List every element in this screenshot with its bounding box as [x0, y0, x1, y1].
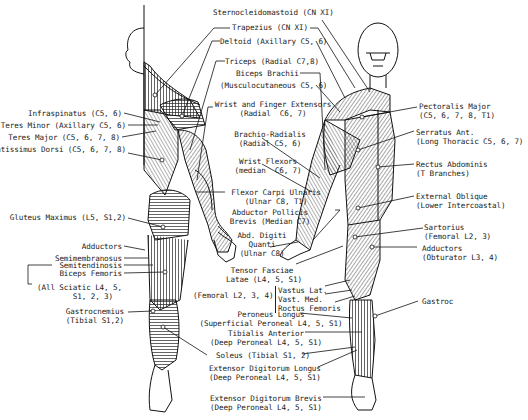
label-rectus-abdominis: Rectus Abdominis (T Branches) — [416, 160, 488, 178]
label-tibialis-anterior: Tibialis Anterior (Deep Peroneal L4, 5, … — [210, 329, 322, 347]
label-brachio-radialis: Brachio-Radialis (Radial C5, 6) — [225, 130, 315, 148]
label-sartorius: Sartorius (Femoral L2, 3) — [424, 223, 491, 241]
label-extensor-digitorum-brevis: Extensor Digitorum Brevis (Deep Peroneal… — [210, 394, 322, 412]
label-tensor-fasciae-latae: Tensor Fasciae Latae (L4, 5, S1) — [226, 266, 298, 284]
label-adductors-anterior: Adductors (Obturator L3, 4) — [422, 244, 498, 262]
label-peroneus-longus: Peroneus Longus (Superficial Peroneal L4… — [196, 310, 346, 328]
label-teres-minor: Teres Minor (Axillary C5, 6) — [1, 121, 126, 130]
label-wrist-finger-extensors: Wrist and Finger Extensors (Radial C6, 7… — [213, 100, 333, 118]
label-external-oblique: External Oblique (Lower Intercoastal) — [416, 192, 505, 210]
label-deltoid: Deltoid (Axillary C5, 6) — [220, 37, 327, 46]
label-wrist-flexors: Wrist Flexors (median C6, 7) — [228, 157, 308, 175]
label-trapezius: Trapezius (CN XI) — [232, 23, 308, 32]
label-adductors-posterior: Adductors — [82, 242, 122, 251]
label-all-sciatic: (All Sciatic L4, 5, S1, 2, 3) — [37, 283, 122, 301]
label-biceps-brachii: Biceps Brachii — [236, 69, 299, 78]
label-biceps-femoris: Biceps Femoris — [59, 269, 122, 278]
muscle-innervation-diagram: Infraspinatus (C5, 6) Teres Minor (Axill… — [0, 0, 528, 420]
label-soleus: Soleus (Tibial S1, 2) — [216, 351, 310, 360]
label-gastroc: Gastroc — [422, 297, 453, 306]
label-triceps: Triceps (Radial C7,8) — [225, 57, 319, 66]
label-extensor-digitorum-longus: Extensor Digitorum Longus (Deep Peroneal… — [209, 364, 321, 382]
label-abd-digiti-quanti: Abd. Digiti Quanti (Ulnar C8) — [232, 231, 292, 258]
label-infraspinatus: Infraspinatus (C5, 6) — [28, 109, 122, 118]
label-flexor-carpi-ulnaris: Flexor Carpi Ulnaris (Ulnar C8, T1) — [226, 188, 326, 206]
label-gluteus-maximus: Gluteus Maximus (L5, S1,2) — [10, 213, 126, 222]
label-quadriceps: Vastus Lat. Vast. Med. Roctus Femoris — [275, 286, 341, 313]
label-femoral-quads: (Femoral L2, 3, 4) — [193, 291, 274, 300]
label-latissimus-dorsi: Latissimus Dorsi (C5, 6, 7, 8) — [0, 145, 126, 154]
label-musculocutaneous: (Musculocutaneous C5, 6) — [220, 81, 327, 90]
label-pectoralis-major: Pectoralis Major (C5, 6, 7, 8, T1) — [419, 102, 495, 120]
label-serratus-anterior: Serratus Ant. (Long Thoracic C5, 6, 7) — [416, 128, 523, 146]
label-abductor-pollicis-brevis: Abductor Pollicis Brevis (Median C7) — [222, 208, 318, 226]
label-gastrocnemius: Gastrocnemius (Tibial S1,2) — [66, 307, 124, 325]
label-sternocleidomastoid: Sternocleidomastoid (CN XI) — [213, 8, 334, 17]
label-teres-major: Teres Major (C5, 6, 7, 8) — [8, 133, 120, 142]
